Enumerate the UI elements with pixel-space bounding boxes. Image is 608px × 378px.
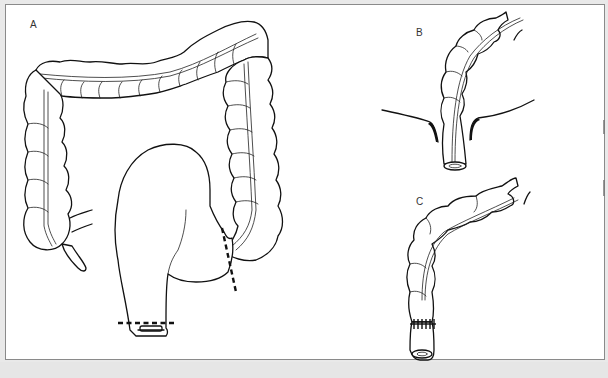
anal-opening-c xyxy=(412,350,432,358)
panel-label-c: C xyxy=(416,196,423,207)
panel-label-a: A xyxy=(30,19,37,30)
descending-colon xyxy=(223,57,282,261)
dilated-rectum xyxy=(115,144,233,336)
colon-surgery-illustration: A xyxy=(0,0,608,378)
ascending-colon xyxy=(24,70,92,271)
panel-c: C xyxy=(407,178,530,360)
panel-a: A xyxy=(24,19,283,336)
anal-opening-b xyxy=(444,162,466,170)
pelvic-floor-left xyxy=(382,110,438,142)
panel-b: B xyxy=(382,12,534,170)
panel-label-b: B xyxy=(416,27,423,38)
